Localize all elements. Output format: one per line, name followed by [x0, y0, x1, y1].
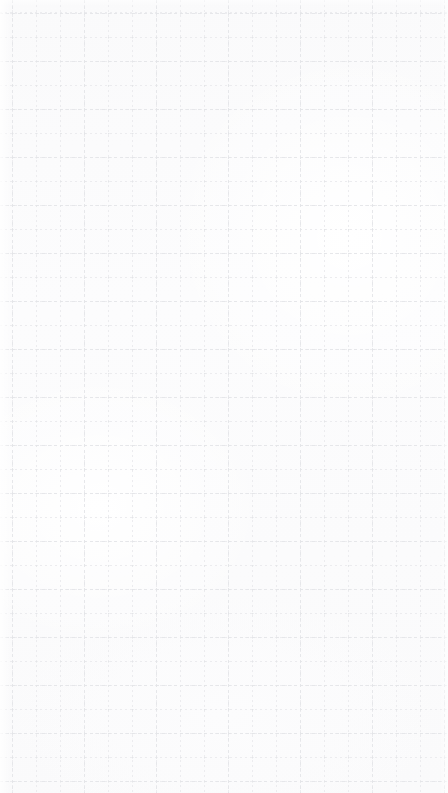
canvas-content-layer[interactable]	[0, 0, 448, 793]
grid-canvas[interactable]: Empty grid canvas	[0, 0, 448, 793]
